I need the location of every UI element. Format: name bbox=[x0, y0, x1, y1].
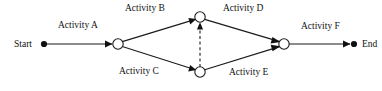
activity-label-c: Activity C bbox=[119, 67, 159, 77]
activity-label-a: Activity A bbox=[58, 21, 98, 31]
event-node-3 bbox=[195, 67, 205, 77]
arrowhead-activity-f bbox=[343, 41, 351, 48]
event-node-2 bbox=[195, 12, 205, 22]
arrowhead-dummy-activity bbox=[197, 22, 203, 29]
activity-label-d: Activity D bbox=[223, 4, 263, 14]
activity-label-b: Activity B bbox=[125, 4, 165, 14]
end-node-dot bbox=[351, 41, 357, 47]
event-node-1 bbox=[113, 39, 123, 49]
event-node-4 bbox=[279, 39, 289, 49]
start-label: Start bbox=[14, 40, 32, 50]
network-graph-canvas bbox=[0, 0, 382, 91]
arrowhead-activity-a bbox=[105, 41, 113, 48]
start-node-dot bbox=[41, 41, 47, 47]
edge-activity-d bbox=[205, 19, 280, 41]
activity-label-f: Activity F bbox=[301, 22, 340, 32]
activity-label-e: Activity E bbox=[229, 68, 268, 78]
activity-network-diagram: Start End Activity A Activity B Activity… bbox=[0, 0, 382, 91]
end-label: End bbox=[362, 40, 377, 50]
edge-activity-b bbox=[122, 19, 195, 41]
